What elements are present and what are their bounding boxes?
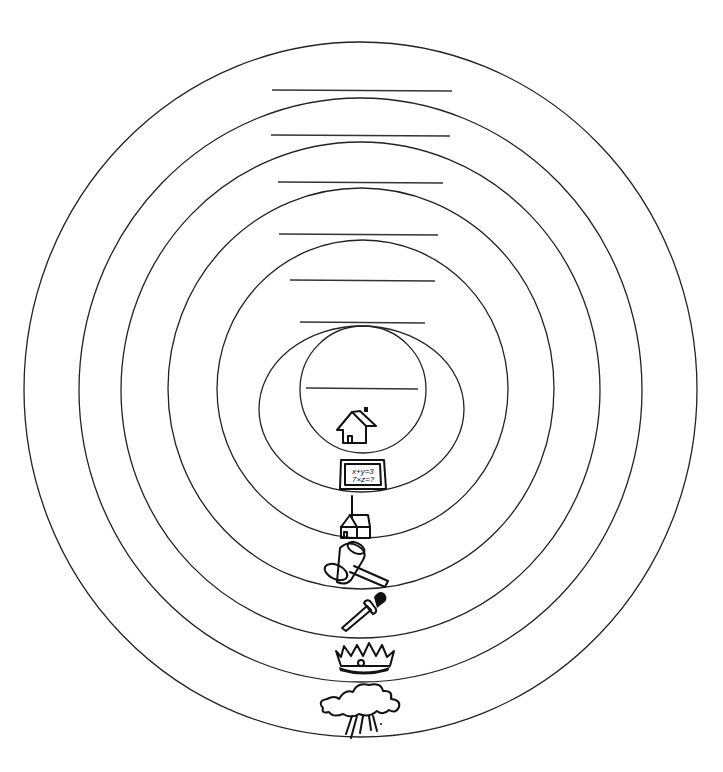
concentric-circles-diagram: x+y=3 7×z=? [0,0,723,772]
label-line-ring-6[interactable] [300,322,425,323]
ring-2 [79,98,642,682]
ring-1-outer [24,42,697,737]
gavel-icon [322,540,388,587]
label-line-ring-3[interactable] [278,182,443,183]
label-line-ring-1[interactable] [272,90,452,91]
label-line-ring-7[interactable] [306,388,418,389]
label-line-ring-4[interactable] [279,234,438,235]
chalkboard-line-2: 7×z=? [352,475,375,484]
sword-icon [342,592,386,631]
label-line-ring-2[interactable] [271,135,450,136]
storm-cloud-icon [321,684,400,738]
house-icon [337,407,376,443]
church-icon [341,496,370,538]
chalkboard-icon: x+y=3 7×z=? [340,460,386,489]
label-line-ring-5[interactable] [290,280,435,281]
crown-icon [336,643,394,675]
